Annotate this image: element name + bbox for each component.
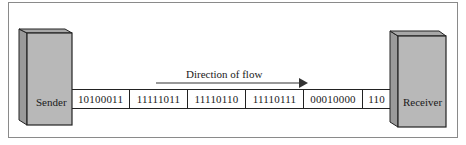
bit-group-cell: 00010000 xyxy=(304,90,363,108)
sender-box-icon xyxy=(19,29,72,125)
receiver-label: Receiver xyxy=(403,96,442,108)
receiver-box-icon xyxy=(390,31,446,127)
bit-group-cell: 11110111 xyxy=(246,90,304,108)
bit-group-cell: 11111011 xyxy=(130,90,188,108)
transmission-line: 10100011 11111011 11110110 11110111 0001… xyxy=(72,89,390,109)
bit-group-cell: 10100011 xyxy=(72,90,130,108)
sender-label: Sender xyxy=(36,96,67,108)
bit-group-cell: 11110110 xyxy=(188,90,246,108)
bit-group-cell: 110 xyxy=(363,90,390,108)
flow-direction-label: Direction of flow xyxy=(186,68,262,80)
